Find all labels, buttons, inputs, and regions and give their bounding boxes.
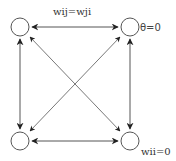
symmetric-weights-label: wij=wji	[53, 6, 91, 17]
node-bottom-left	[11, 132, 29, 150]
self-weight-label: wii=0	[141, 146, 171, 157]
node-top-left	[11, 18, 29, 36]
threshold-label: θ=0	[140, 22, 161, 33]
node-top-right	[121, 18, 139, 36]
edges	[20, 27, 130, 141]
node-bottom-right	[121, 132, 139, 150]
hopfield-network-diagram: wij=wji θ=0 wii=0	[0, 0, 176, 161]
